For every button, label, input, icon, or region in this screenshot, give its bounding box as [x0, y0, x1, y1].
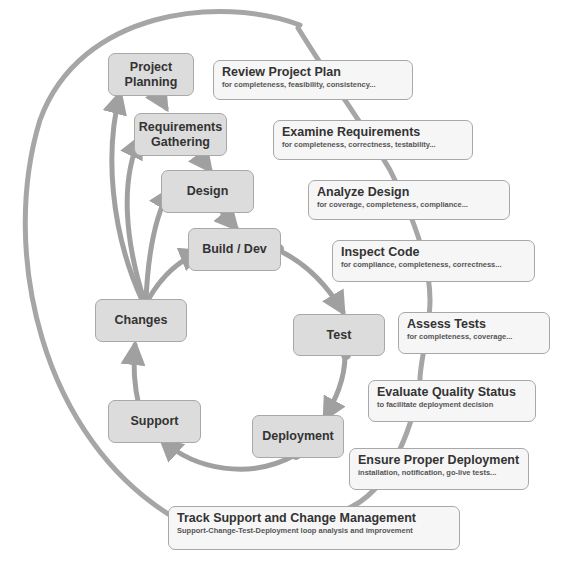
review-subtitle: for completeness, feasibility, consisten…	[222, 80, 404, 90]
review-subtitle: for completeness, coverage...	[407, 332, 541, 342]
review-examine-requirements: Examine Requirements for completeness, c…	[273, 120, 473, 160]
review-inspect-code: Inspect Code for compliance, completenes…	[332, 240, 535, 282]
phase-support: Support	[108, 400, 201, 443]
review-subtitle: installation, notification, go-live test…	[358, 468, 520, 478]
phase-deployment: Deployment	[252, 415, 344, 458]
review-subtitle: for coverage, completeness, compliance..…	[317, 200, 501, 210]
arrow-design-to-build	[222, 212, 236, 228]
review-subtitle: to facilitate deployment decision	[377, 400, 527, 410]
phase-project-planning: Project Planning	[108, 53, 194, 96]
phase-requirements-gathering: Requirements Gathering	[134, 113, 227, 156]
review-title: Ensure Proper Deployment	[358, 453, 520, 468]
review-subtitle: for compliance, completeness, correctnes…	[341, 260, 526, 270]
review-evaluate-quality-status: Evaluate Quality Status to facilitate de…	[368, 380, 536, 422]
review-analyze-design: Analyze Design for coverage, completenes…	[308, 180, 510, 220]
review-track-support-change: Track Support and Change Management Supp…	[168, 506, 460, 550]
review-subtitle: for completeness, correctness, testabili…	[282, 140, 464, 150]
review-title: Review Project Plan	[222, 65, 404, 80]
phase-build-dev: Build / Dev	[188, 228, 281, 271]
arrow-support-to-changes	[134, 345, 139, 406]
review-title: Evaluate Quality Status	[377, 385, 527, 400]
review-title: Assess Tests	[407, 317, 541, 332]
review-title: Track Support and Change Management	[177, 511, 451, 526]
review-ensure-proper-deployment: Ensure Proper Deployment installation, n…	[349, 448, 529, 490]
review-assess-tests: Assess Tests for completeness, coverage.…	[398, 312, 550, 354]
arrow-test-to-deployment	[325, 355, 345, 418]
review-title: Examine Requirements	[282, 125, 464, 140]
review-title: Inspect Code	[341, 245, 526, 260]
phase-changes: Changes	[95, 299, 187, 342]
review-project-plan: Review Project Plan for completeness, fe…	[213, 60, 413, 100]
review-subtitle: Support-Change-Test-Deployment loop anal…	[177, 526, 451, 536]
review-title: Analyze Design	[317, 185, 501, 200]
phase-test: Test	[293, 314, 385, 356]
phase-design: Design	[161, 170, 254, 213]
